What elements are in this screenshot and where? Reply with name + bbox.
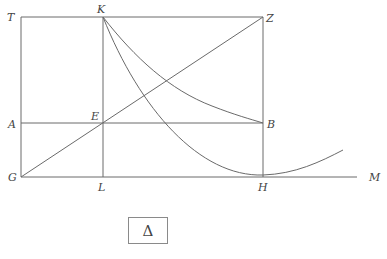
delta-caption-box: Δ bbox=[128, 217, 168, 244]
delta-symbol: Δ bbox=[143, 222, 154, 240]
geometric-diagram: T K Z A E B G L H M bbox=[0, 0, 387, 259]
label-T: T bbox=[7, 11, 16, 24]
line-GZ bbox=[21, 17, 263, 177]
label-K: K bbox=[96, 3, 106, 16]
label-Z: Z bbox=[265, 12, 274, 25]
label-E: E bbox=[90, 110, 99, 123]
label-H: H bbox=[257, 181, 268, 194]
label-A: A bbox=[7, 118, 16, 131]
label-G: G bbox=[8, 171, 17, 184]
label-L: L bbox=[97, 181, 105, 194]
curve-parabola-KH bbox=[103, 17, 343, 175]
label-B: B bbox=[266, 118, 275, 131]
label-M: M bbox=[368, 171, 381, 184]
